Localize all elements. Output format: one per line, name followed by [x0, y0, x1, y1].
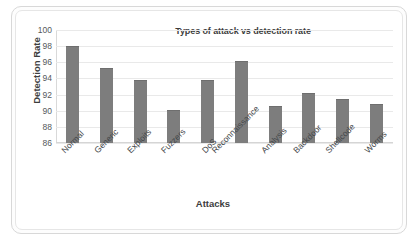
bar-slot	[157, 30, 191, 143]
y-axis-tick-label: 100	[38, 25, 52, 35]
x-tick-slot: Exploits	[123, 144, 157, 204]
bar-slot	[359, 30, 393, 143]
y-axis-tick-label: 88	[43, 122, 52, 132]
bar-slot	[258, 30, 292, 143]
x-tick-slot: Analysis	[258, 144, 292, 204]
bar	[201, 80, 214, 143]
bar-slot	[123, 30, 157, 143]
x-tick-slot: Reconnaissance	[225, 144, 259, 204]
x-tick-slot: Backdoor	[292, 144, 326, 204]
y-axis-tick-label: 86	[43, 138, 52, 148]
x-axis-tick-labels: NormalGenericExploitsFuzzersDoSReconnais…	[56, 144, 393, 204]
bar-slot	[56, 30, 90, 143]
bar-slot	[191, 30, 225, 143]
y-axis-tick-label: 90	[43, 106, 52, 116]
y-axis-tick-label: 98	[43, 41, 52, 51]
bar-series	[56, 30, 393, 143]
y-axis-tick-label: 96	[43, 57, 52, 67]
chart-screenshot: Types of attack vs detection rate Detect…	[0, 0, 418, 242]
x-tick-slot: DoS	[191, 144, 225, 204]
y-axis-title: Detection Rate	[31, 31, 42, 111]
plot-area: 86889092949698100	[56, 30, 393, 143]
x-tick-slot: Shellcode	[326, 144, 360, 204]
x-tick-slot: Worms	[359, 144, 393, 204]
x-axis-title: Attacks	[168, 198, 258, 209]
y-axis-tick-label: 92	[43, 90, 52, 100]
chart-figure: Types of attack vs detection rate Detect…	[18, 13, 400, 227]
bar-slot	[90, 30, 124, 143]
x-tick-slot: Generic	[90, 144, 124, 204]
x-tick-slot: Normal	[56, 144, 90, 204]
y-axis-tick-label: 94	[43, 73, 52, 83]
x-tick-slot: Fuzzers	[157, 144, 191, 204]
